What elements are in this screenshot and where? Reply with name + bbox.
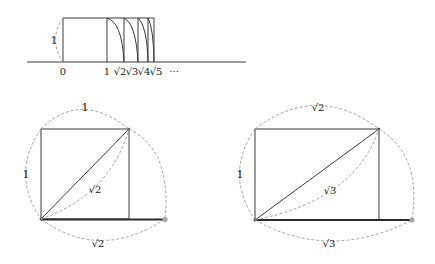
arc-sqrt3	[124, 18, 138, 62]
height-label: 1	[51, 34, 58, 47]
axis-label-sqrt2: √2	[114, 66, 127, 77]
bottom-label: √3	[323, 238, 336, 249]
arc-sqrt5	[148, 18, 154, 62]
top-label: √2	[312, 102, 325, 113]
arc-sqrt2	[107, 18, 124, 62]
diagonal	[41, 129, 129, 219]
axis-label-0: 0	[60, 66, 66, 77]
top-label: 1	[82, 101, 89, 114]
side-label: 1	[23, 168, 30, 181]
rotation-arc	[129, 129, 166, 219]
axis-label-sqrt5: √5	[150, 66, 163, 77]
sqrt-construction-diagram: 1 0 1 √2 √3 √4 √5 ⋯ 1 1 √2 √2	[0, 0, 435, 264]
diagonal-label: √3	[324, 185, 337, 196]
left-figure: 1 1 √2 √2	[23, 101, 168, 249]
diagonal	[255, 129, 379, 220]
diagonal-label: √2	[89, 184, 102, 195]
right-figure: √2 1 √3 √3	[237, 102, 415, 249]
arc-sqrt4	[138, 18, 148, 62]
axis-ellipsis: ⋯	[169, 66, 179, 77]
bottom-label: √2	[92, 238, 105, 249]
axis-label-sqrt3: √3	[126, 66, 139, 77]
side-label: 1	[237, 168, 244, 181]
axis-label-1: 1	[104, 66, 110, 77]
top-figure: 1 0 1 √2 √3 √4 √5 ⋯	[27, 18, 246, 77]
rotation-arc	[379, 129, 414, 220]
axis-label-sqrt4: √4	[138, 66, 151, 77]
